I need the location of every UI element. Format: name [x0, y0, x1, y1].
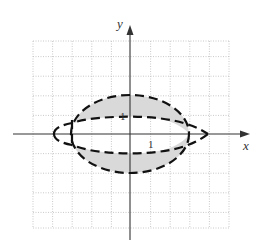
- x-axis-label: x: [243, 138, 249, 154]
- y-axis-arrow-icon: [127, 25, 134, 35]
- axes: [13, 30, 246, 240]
- x-tick-label: 1: [148, 138, 154, 150]
- x-axis-arrow-icon: [240, 131, 250, 138]
- y-axis-label: y: [117, 16, 123, 32]
- coordinate-plane: [0, 0, 264, 242]
- y-tick-label: 1: [120, 110, 126, 122]
- diagram-canvas: y x 1 1: [0, 0, 264, 242]
